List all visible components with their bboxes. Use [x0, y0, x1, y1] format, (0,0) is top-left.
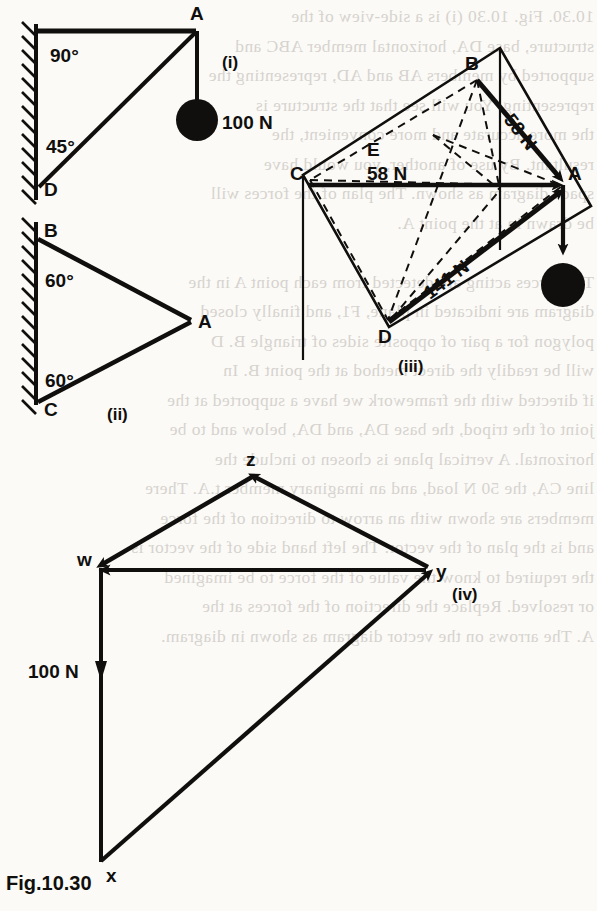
label-point-b-iii: B [465, 53, 479, 74]
vector-xy-iv [101, 573, 429, 861]
label-panel-ii: (ii) [107, 405, 128, 424]
wall-hatching-i [22, 22, 36, 204]
label-force-58n-ca: 58 N [367, 163, 407, 184]
panel-iv-geometry [95, 476, 429, 862]
figure-caption: Fig.10.30 [6, 872, 92, 894]
label-point-w-iv: w [76, 549, 92, 570]
vector-zw-iv [101, 477, 252, 565]
wall-hatching-ii [22, 218, 36, 414]
label-point-z-iv: z [246, 449, 256, 470]
label-point-d-iii: D [378, 326, 392, 347]
label-point-x-iv: x [106, 865, 117, 886]
label-panel-i: (i) [222, 53, 238, 72]
load-weight-i [176, 99, 218, 141]
engineering-diagram-svg: A D 90° 45° 100 N (i) [0, 0, 597, 911]
label-point-a-ii: A [198, 311, 212, 332]
label-point-y-iv: y [436, 561, 447, 582]
figure-canvas: 10.30. Fig. 10.30 (i) is a side-view of … [0, 0, 597, 911]
label-angle-60-bottom-ii: 60° [45, 370, 74, 391]
label-angle-60-top-ii: 60° [45, 270, 74, 291]
panel-iii-geometry [303, 48, 591, 360]
arrowhead-wx-iv [95, 661, 107, 681]
force-vector-da-iii [389, 192, 560, 322]
label-point-c-ii: C [44, 399, 58, 420]
label-point-d-i: D [44, 179, 58, 200]
label-point-c-iii: C [290, 163, 304, 184]
label-panel-iv: (iv) [452, 585, 478, 604]
label-point-a-iii: A [568, 163, 582, 184]
vector-yz-iv [253, 476, 428, 567]
label-force-100n-i: 100 N [222, 112, 273, 133]
label-panel-iii: (iii) [398, 357, 424, 376]
label-force-141n-da: 141 N [420, 256, 473, 303]
load-weight-iii [541, 263, 585, 307]
label-force-100n-iv: 100 N [28, 661, 79, 682]
label-point-a-i: A [190, 3, 204, 24]
label-point-e-iii: E [367, 139, 380, 160]
label-point-b-ii: B [44, 220, 58, 241]
label-angle-90-i: 90° [50, 45, 79, 66]
label-angle-45-i: 45° [46, 136, 75, 157]
